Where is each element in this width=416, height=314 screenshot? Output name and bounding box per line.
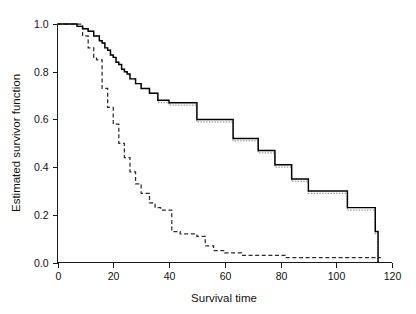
survival-curve-group-2 [58, 24, 381, 258]
x-tick-label: 0 [56, 270, 62, 282]
y-tick-label: 0.8 [34, 66, 49, 78]
y-axis-title: Estimated survivor function [10, 74, 22, 212]
x-axis-ticks [59, 263, 393, 268]
data-curves [58, 24, 381, 263]
x-axis-tick-labels: 020406080100120 [56, 270, 402, 282]
survival-curve-group-1 [58, 24, 379, 263]
axes [53, 24, 393, 268]
y-tick-label: 1.0 [34, 18, 49, 30]
y-tick-label: 0.2 [34, 209, 49, 221]
x-tick-label: 80 [276, 270, 288, 282]
survival-curve-group-1-dotted [58, 24, 379, 263]
x-tick-label: 120 [384, 270, 402, 282]
y-tick-label: 0.4 [34, 161, 49, 173]
y-tick-label: 0.6 [34, 113, 49, 125]
x-axis-title: Survival time [191, 292, 257, 304]
y-axis-ticks [53, 25, 58, 264]
x-tick-label: 20 [108, 270, 120, 282]
x-tick-label: 60 [220, 270, 232, 282]
x-tick-label: 100 [328, 270, 346, 282]
x-tick-label: 40 [164, 270, 176, 282]
survival-plot-figure: 020406080100120 0.00.20.40.60.81.0 Survi… [0, 0, 416, 314]
chart-canvas: 020406080100120 0.00.20.40.60.81.0 Survi… [0, 0, 416, 314]
y-axis-tick-labels: 0.00.20.40.60.81.0 [34, 18, 49, 269]
y-tick-label: 0.0 [34, 257, 49, 269]
